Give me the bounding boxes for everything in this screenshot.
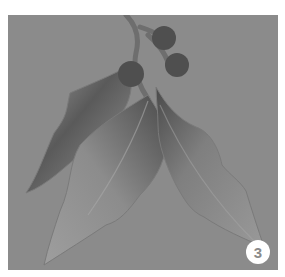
holly-illustration [8, 15, 278, 270]
leaf-right [156, 87, 264, 247]
berry-3 [118, 61, 144, 87]
step-number-label: 3 [254, 245, 262, 260]
holly-painting [8, 15, 278, 270]
berry-1 [152, 26, 176, 50]
step-number-badge: 3 [246, 240, 270, 264]
berry-2 [165, 53, 189, 77]
